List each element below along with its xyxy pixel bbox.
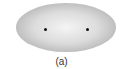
ellipse-shape bbox=[16, 3, 116, 52]
focus-point-left bbox=[44, 28, 47, 31]
focus-point-right bbox=[86, 28, 89, 31]
figure-caption: (a) bbox=[0, 56, 123, 67]
